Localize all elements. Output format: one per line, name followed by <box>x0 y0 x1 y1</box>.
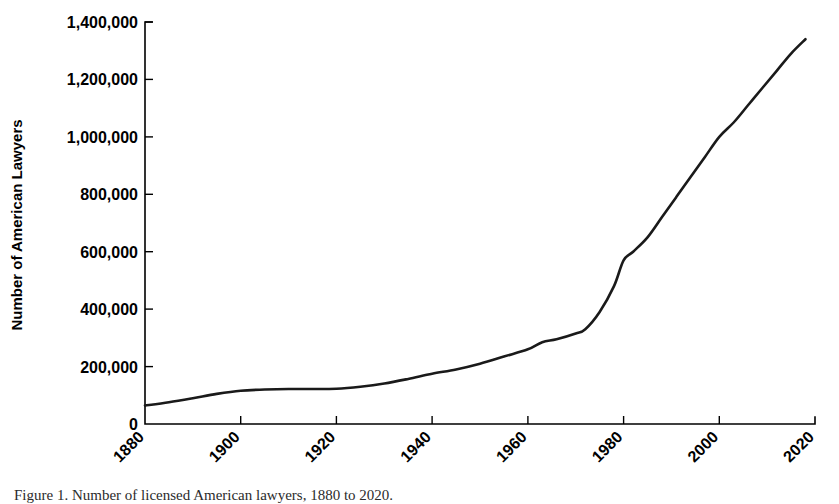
y-tick-label: 600,000 <box>80 244 138 261</box>
y-tick-label: 200,000 <box>80 359 138 376</box>
y-tick-label: 400,000 <box>80 301 138 318</box>
y-tick-label: 1,000,000 <box>67 129 138 146</box>
figure-container: Number of American Lawyers 1,400,000 1,2… <box>0 0 839 504</box>
figure-caption: Figure 1. Number of licensed American la… <box>14 487 393 503</box>
y-tick-label: 800,000 <box>80 186 138 203</box>
y-tick-label: 1,200,000 <box>67 71 138 88</box>
lawyers-line-chart: Number of American Lawyers 1,400,000 1,2… <box>0 0 839 504</box>
y-axis-title: Number of American Lawyers <box>8 119 25 330</box>
y-tick-label: 1,400,000 <box>67 14 138 31</box>
